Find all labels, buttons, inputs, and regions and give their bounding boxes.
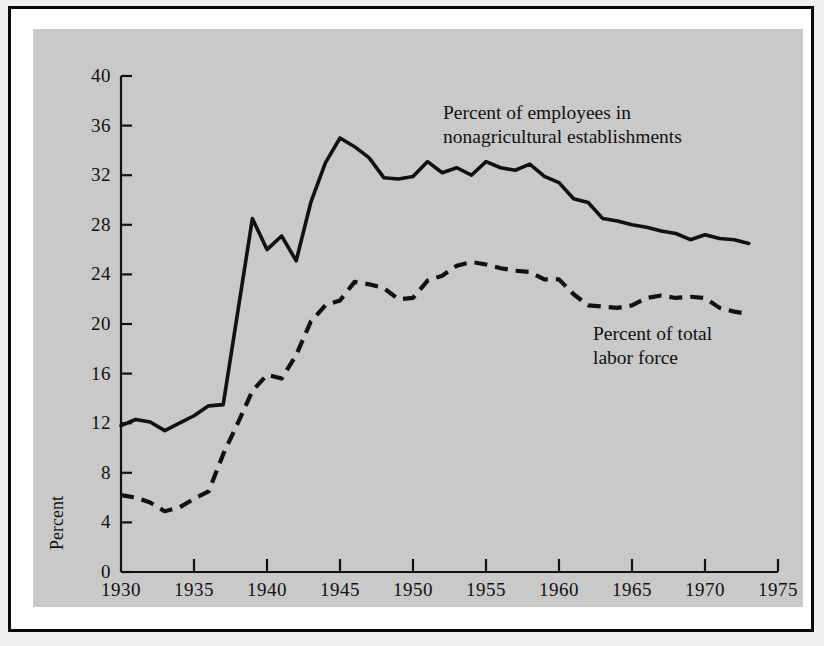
chart-outer-frame: 0481216202428323640 19301935194019451950… <box>8 6 814 632</box>
x-axis-tick-label: 1945 <box>320 579 360 601</box>
x-axis-tick-label: 1950 <box>393 579 433 601</box>
x-axis-tick-label: 1965 <box>612 579 652 601</box>
x-axis-tick-label: 1935 <box>174 579 214 601</box>
y-axis-tick-label: 32 <box>53 164 111 186</box>
y-axis-tick-label: 36 <box>53 115 111 137</box>
annotation-nonagricultural-line2: nonagricultural establishments <box>443 125 682 149</box>
series-line-nonagricultural <box>121 138 749 431</box>
y-axis-tick-label: 8 <box>53 462 111 484</box>
annotation-labor-force: Percent of total labor force <box>593 322 712 370</box>
annotation-nonagricultural: Percent of employees in nonagricultural … <box>443 101 682 149</box>
y-axis-tick-label: 16 <box>53 363 111 385</box>
y-axis-tick-label: 20 <box>53 313 111 335</box>
y-axis-title: Percent <box>47 496 68 550</box>
x-axis-tick-label: 1970 <box>685 579 725 601</box>
y-axis-tick-label: 12 <box>53 412 111 434</box>
x-axis-ticks <box>194 559 778 572</box>
x-axis-tick-label: 1940 <box>247 579 287 601</box>
y-axis-tick-label: 24 <box>53 263 111 285</box>
y-axis-tick-label: 28 <box>53 214 111 236</box>
x-axis-tick-label: 1955 <box>466 579 506 601</box>
annotation-labor-force-line1: Percent of total <box>593 322 712 346</box>
series-line-labor-force <box>121 262 749 511</box>
chart-svg <box>33 29 803 607</box>
annotation-nonagricultural-line1: Percent of employees in <box>443 101 682 125</box>
y-axis-tick-label: 40 <box>53 65 111 87</box>
x-axis-tick-label: 1960 <box>539 579 579 601</box>
x-axis-tick-label: 1930 <box>101 579 141 601</box>
annotation-labor-force-line2: labor force <box>593 346 712 370</box>
chart-page: 0481216202428323640 19301935194019451950… <box>0 0 824 646</box>
x-axis-tick-label: 1975 <box>758 579 798 601</box>
chart-plot-panel: 0481216202428323640 19301935194019451950… <box>33 29 803 607</box>
